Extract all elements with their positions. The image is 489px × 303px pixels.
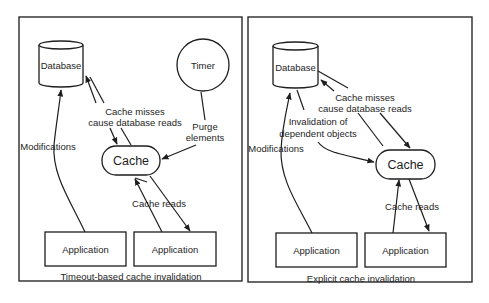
database-node: Database xyxy=(273,42,318,88)
panel-caption: Explicit cache invalidation xyxy=(307,273,415,284)
panel-explicit: Database Cache Application Application M… xyxy=(248,17,472,284)
timer-node: Timer xyxy=(177,39,229,91)
cache-label: Cache xyxy=(387,158,423,172)
invalidation-label-2: dependent objects xyxy=(279,128,357,139)
application-label: Application xyxy=(293,245,339,256)
application-label: Application xyxy=(382,245,428,256)
cache-node: Cache xyxy=(102,146,160,175)
cache-node: Cache xyxy=(376,150,435,179)
invalidation-label-1: Invalidation of xyxy=(289,116,348,127)
application-node-1: Application xyxy=(276,233,357,267)
application-label: Application xyxy=(152,244,198,255)
cache-misses-label-1: Cache misses xyxy=(105,106,165,117)
panel-caption: Timeout-based cache invalidation xyxy=(60,271,201,282)
database-label: Database xyxy=(275,62,316,73)
modifications-label: Modifications xyxy=(248,143,304,154)
application-node-1: Application xyxy=(45,232,126,266)
timer-label: Timer xyxy=(191,60,215,71)
cache-invalidation-diagram: Database Timer Cache Application Applica… xyxy=(0,0,489,303)
modifications-label: Modifications xyxy=(20,141,76,152)
purge-label-1: Purge xyxy=(192,121,217,132)
cache-reads-label: Cache reads xyxy=(132,198,186,209)
database-node: Database xyxy=(39,41,83,87)
panel-timeout-based: Database Timer Cache Application Applica… xyxy=(19,17,242,282)
cache-label: Cache xyxy=(113,154,149,168)
cache-misses-label-1: Cache misses xyxy=(335,92,395,103)
application-node-2: Application xyxy=(134,232,216,266)
application-label: Application xyxy=(62,244,108,255)
cache-misses-label-2: cause database reads xyxy=(88,117,182,128)
application-node-2: Application xyxy=(365,233,446,267)
cache-misses-label-2: cause database reads xyxy=(318,103,412,114)
purge-label-2: elements xyxy=(186,132,225,143)
cache-reads-label: Cache reads xyxy=(385,201,439,212)
database-label: Database xyxy=(41,60,82,71)
